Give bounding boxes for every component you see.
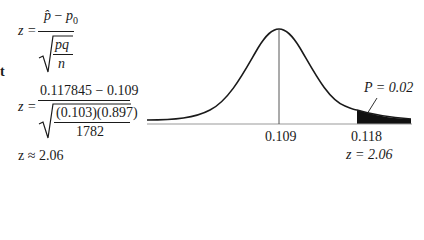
- tick-mean: 0.109: [265, 130, 297, 144]
- z-label: z = 2.06: [346, 148, 392, 162]
- p-leader-line: [367, 98, 377, 114]
- tick-critical: 0.118: [351, 130, 382, 144]
- p-value-label: P = 0.02: [364, 81, 413, 95]
- p-value-text: P = 0.02: [364, 80, 413, 95]
